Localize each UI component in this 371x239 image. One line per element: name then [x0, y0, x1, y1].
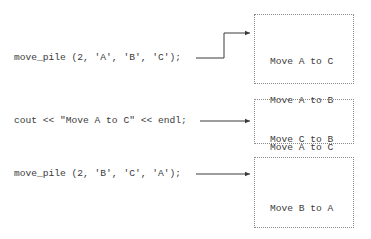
arrows-layer	[0, 0, 371, 239]
arrow-1	[196, 33, 250, 58]
